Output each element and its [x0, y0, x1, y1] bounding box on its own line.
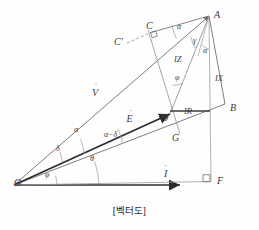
line-A-D-IZ [170, 16, 209, 114]
line-O-A [14, 16, 209, 185]
angle-arc-alpha-O [81, 139, 85, 154]
tick-A-inner [198, 16, 209, 56]
diagram-canvas [0, 0, 259, 230]
right-angle-marker-F [203, 175, 210, 182]
angle-arc-gamma-A [191, 37, 196, 48]
angle-arc-alpha-A [202, 45, 210, 50]
line-C-A [151, 16, 209, 33]
angle-arc-delta-O [60, 152, 63, 163]
line-O-B [14, 104, 225, 185]
figure-caption: [벡터도] [0, 203, 259, 217]
vector-E [14, 114, 170, 185]
line-A-F [209, 16, 211, 182]
angle-arc-phi-O [56, 176, 57, 185]
line-A-B [209, 16, 225, 104]
angle-arc-theta-O [95, 161, 99, 185]
line-Cprime-C-dashed [127, 33, 151, 44]
vector-diagram-figure: O A B C C' D G F ˙V ˙E ˙I α δ θ φ α−δ α … [0, 0, 259, 230]
angle-arc-alpha-C [172, 25, 177, 39]
